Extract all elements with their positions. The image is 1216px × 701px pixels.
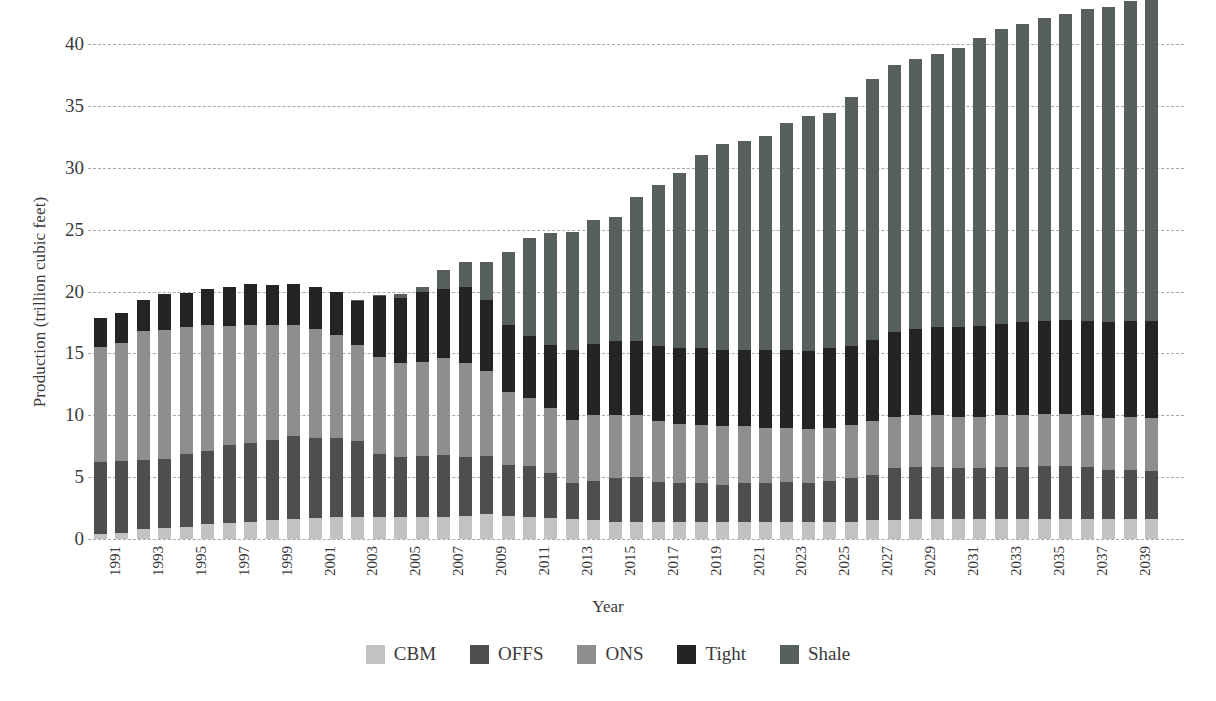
bar-segment-tight: [309, 287, 322, 329]
bar-segment-tight: [244, 284, 257, 325]
bar-segment-ons: [459, 363, 472, 457]
bar-segment-offs: [1124, 470, 1137, 520]
bar-segment-offs: [652, 482, 665, 522]
bar: [1124, 1, 1137, 539]
bar-segment-tight: [931, 327, 944, 415]
bar-segment-cbm: [609, 522, 622, 539]
legend-item-ons[interactable]: ONS: [577, 643, 643, 665]
legend-item-tight[interactable]: Tight: [677, 643, 746, 665]
bar-segment-ons: [223, 326, 236, 445]
bar-segment-tight: [180, 293, 193, 328]
x-axis-tick-label: 1993: [150, 546, 167, 576]
bar-segment-ons: [630, 415, 643, 477]
bar-segment-ons: [716, 426, 729, 484]
bar-segment-ons: [416, 362, 429, 456]
bar-segment-tight: [695, 348, 708, 425]
bar-segment-tight: [973, 326, 986, 416]
bar: [201, 289, 214, 539]
bar-segment-shale: [759, 136, 772, 350]
bar: [673, 173, 686, 539]
bar: [652, 185, 665, 539]
bar-segment-tight: [544, 345, 557, 408]
bar-segment-offs: [544, 473, 557, 518]
bar-segment-ons: [673, 424, 686, 483]
bar-segment-cbm: [587, 520, 600, 539]
legend-swatch-icon: [366, 645, 385, 664]
bar-segment-tight: [523, 336, 536, 398]
bar-segment-cbm: [437, 517, 450, 539]
bar-segment-tight: [459, 287, 472, 364]
bar-segment-ons: [845, 425, 858, 478]
bar-segment-ons: [309, 329, 322, 438]
bar-segment-ons: [244, 325, 257, 443]
x-axis-tick-label: 2021: [751, 546, 768, 576]
bar: [566, 232, 579, 539]
x-axis-tick-label: 1995: [193, 546, 210, 576]
bar: [845, 97, 858, 539]
x-axis-tick-label: 2015: [622, 546, 639, 576]
bar: [480, 262, 493, 539]
x-axis-tick-label: 2023: [793, 546, 810, 576]
bar: [437, 270, 450, 539]
bar-segment-shale: [1016, 24, 1029, 322]
bar-segment-tight: [759, 350, 772, 428]
bar-segment-offs: [180, 454, 193, 527]
bar-segment-shale: [738, 141, 751, 350]
bar-segment-ons: [394, 363, 407, 457]
legend-label: Shale: [808, 643, 850, 665]
bar-segment-cbm: [931, 519, 944, 539]
bar-segment-offs: [1145, 471, 1158, 519]
legend-item-cbm[interactable]: CBM: [366, 643, 436, 665]
bar-segment-offs: [1081, 467, 1094, 519]
bar-segment-cbm: [201, 524, 214, 539]
bar-segment-tight: [115, 313, 128, 344]
bar: [909, 59, 922, 539]
bar-segment-cbm: [1081, 519, 1094, 539]
bar: [544, 233, 557, 539]
bar-segment-cbm: [416, 517, 429, 539]
bar-segment-tight: [1145, 321, 1158, 418]
bar-segment-shale: [609, 217, 622, 341]
bar: [416, 287, 429, 539]
bar-segment-ons: [201, 325, 214, 451]
x-axis-tick-label: 2009: [493, 546, 510, 576]
legend-item-offs[interactable]: OFFS: [470, 643, 543, 665]
bar-segment-cbm: [695, 522, 708, 539]
bar: [309, 287, 322, 539]
legend-swatch-icon: [677, 645, 696, 664]
y-axis-tick-label: 25: [14, 219, 84, 241]
bar-segment-offs: [373, 454, 386, 517]
bar-segment-cbm: [1016, 519, 1029, 539]
bar-segment-offs: [158, 459, 171, 528]
bar-segment-ons: [1145, 418, 1158, 471]
x-axis-tick-label: 2029: [922, 546, 939, 576]
bar-segment-offs: [909, 467, 922, 519]
bar-segment-shale: [566, 232, 579, 350]
bar-segment-offs: [330, 438, 343, 517]
bar: [630, 197, 643, 539]
bar-segment-ons: [1059, 414, 1072, 466]
bar: [995, 29, 1008, 539]
bar-segment-shale: [823, 113, 836, 348]
x-axis-tick-label: 2039: [1137, 546, 1154, 576]
bar-segment-offs: [888, 468, 901, 520]
bar: [330, 292, 343, 539]
bar-segment-cbm: [94, 534, 107, 539]
bar-segment-ons: [695, 425, 708, 483]
bar-segment-cbm: [652, 522, 665, 539]
bar-segment-cbm: [223, 523, 236, 539]
legend-item-shale[interactable]: Shale: [780, 643, 850, 665]
bar-segment-offs: [266, 440, 279, 520]
x-axis-tick-label: 2019: [708, 546, 725, 576]
bar-segment-shale: [780, 123, 793, 349]
y-axis-tick-label: 15: [14, 342, 84, 364]
bar: [695, 155, 708, 539]
x-axis-tick-label: 2017: [665, 546, 682, 576]
bar-segment-ons: [566, 420, 579, 483]
bar: [115, 313, 128, 539]
bar: [952, 48, 965, 539]
bar-segment-ons: [351, 345, 364, 442]
y-axis-tick-label: 20: [14, 281, 84, 303]
bar-segment-tight: [1016, 322, 1029, 415]
plot-area: 0510152025303540 19911993199519971999200…: [88, 44, 1184, 539]
